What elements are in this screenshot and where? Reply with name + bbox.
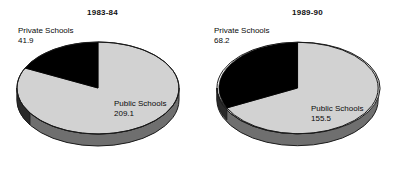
slice-label-public-left: Public Schools 209.1: [114, 99, 166, 118]
slice-label-private-name-right: Private Schools: [214, 26, 270, 36]
slice-label-public-value-right: 155.5: [311, 114, 363, 124]
slice-label-private-left: Private Schools 41.9: [18, 26, 74, 45]
slice-label-public-name-right: Public Schools: [311, 104, 363, 114]
slice-label-public-right: Public Schools 155.5: [311, 104, 363, 123]
slice-label-public-value-left: 209.1: [114, 109, 166, 119]
pie-chart-1989-90: 1989-90 Private Schools 68.2 Public Scho…: [205, 0, 410, 178]
slice-label-private-name-left: Private Schools: [18, 26, 74, 36]
slice-label-private-value-right: 68.2: [214, 36, 270, 46]
slice-label-private-value-left: 41.9: [18, 36, 74, 46]
slice-label-private-right: Private Schools 68.2: [214, 26, 270, 45]
pie-chart-1983-84: 1983-84 Private Schools 41.9 Public Scho…: [0, 0, 205, 178]
slice-label-public-name-left: Public Schools: [114, 99, 166, 109]
